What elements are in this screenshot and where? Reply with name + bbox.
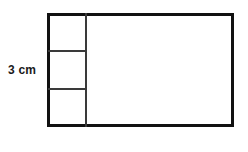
- cell-divider-line-2: [48, 88, 86, 90]
- column-divider-line: [85, 13, 87, 127]
- main-rectangle: [47, 13, 234, 127]
- figure-canvas: 3 cm: [0, 0, 248, 152]
- dimension-label-height: 3 cm: [8, 61, 44, 79]
- cell-divider-line-1: [48, 50, 86, 52]
